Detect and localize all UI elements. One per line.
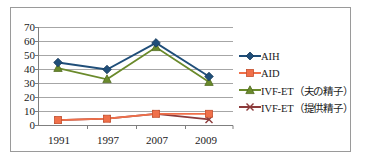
- legend-item-ivf-et-donor-sperm[interactable]: IVF-ET（提供精子）: [239, 99, 361, 115]
- legend-marker-square-icon: [239, 66, 261, 80]
- legend-label-ivf-et-donor-sperm: IVF-ET（提供精子）: [261, 100, 353, 115]
- legend-marker-triangle-icon: [239, 83, 261, 97]
- legend-label-aid: AID: [261, 68, 279, 79]
- legend-item-aih[interactable]: AIH: [239, 48, 361, 64]
- chart-figure: 70 60 50 40 30 20 10 0 1991 1997 2007 20…: [0, 0, 365, 167]
- legend-label-aih: AIH: [261, 51, 279, 62]
- legend-label-ivf-et-husband-sperm: IVF-ET（夫の精子）: [261, 83, 353, 98]
- legend-marker-diamond-icon: [239, 49, 261, 63]
- chart-frame: 70 60 50 40 30 20 10 0 1991 1997 2007 20…: [10, 7, 351, 152]
- chart-legend: AIH AID IVF-ET（夫の精子）: [239, 48, 361, 116]
- legend-item-ivf-et-husband-sperm[interactable]: IVF-ET（夫の精子）: [239, 82, 361, 98]
- legend-item-aid[interactable]: AID: [239, 65, 361, 81]
- series-aih: [54, 39, 214, 81]
- legend-marker-cross-icon: [239, 100, 261, 114]
